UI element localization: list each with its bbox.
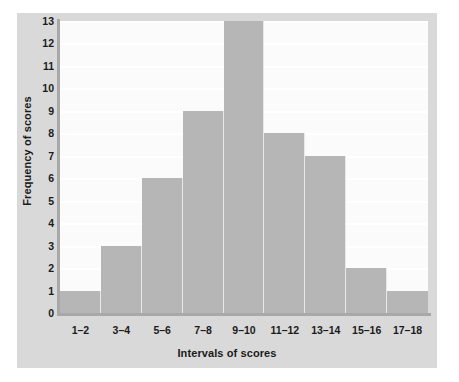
y-axis-tick-labels: 012345678910111213 xyxy=(26,21,54,313)
x-tick-label: 5–6 xyxy=(142,324,183,336)
y-tick-label: 10 xyxy=(32,83,54,93)
x-tick-label: 13–14 xyxy=(305,324,346,336)
histogram-bar xyxy=(142,178,183,313)
histogram-bar xyxy=(224,21,265,313)
histogram-bar xyxy=(305,156,346,313)
y-tick-label: 0 xyxy=(32,308,54,318)
histogram-bar xyxy=(60,291,101,313)
x-axis-line xyxy=(57,313,431,316)
x-tick-label: 9–10 xyxy=(224,324,265,336)
y-tick-label: 6 xyxy=(32,173,54,183)
histogram-figure: Frequency of scores 012345678910111213 1… xyxy=(0,0,459,382)
x-axis-tick-labels: 1–23–45–67–89–1011–1213–1415–1617–18 xyxy=(60,324,428,340)
y-tick-label: 13 xyxy=(32,16,54,26)
plot-area xyxy=(60,21,428,313)
y-tick-label: 7 xyxy=(32,151,54,161)
y-axis-line xyxy=(57,19,60,315)
histogram-bar xyxy=(183,111,224,313)
y-tick-label: 5 xyxy=(32,196,54,206)
y-tick-label: 11 xyxy=(32,61,54,71)
y-tick-label: 8 xyxy=(32,128,54,138)
histogram-bar xyxy=(264,133,305,313)
y-tick-label: 2 xyxy=(32,263,54,273)
y-tick-label: 3 xyxy=(32,241,54,251)
y-tick-label: 9 xyxy=(32,106,54,116)
histogram-bar xyxy=(346,268,387,313)
x-tick-label: 11–12 xyxy=(264,324,305,336)
y-tick-label: 4 xyxy=(32,218,54,228)
histogram-bar xyxy=(101,246,142,313)
x-tick-label: 3–4 xyxy=(101,324,142,336)
x-tick-label: 1–2 xyxy=(60,324,101,336)
histogram-bar xyxy=(387,291,428,313)
x-tick-label: 15–16 xyxy=(346,324,387,336)
y-tick-label: 12 xyxy=(32,38,54,48)
x-tick-label: 7–8 xyxy=(183,324,224,336)
y-tick-label: 1 xyxy=(32,286,54,296)
x-tick-label: 17–18 xyxy=(387,324,428,336)
x-axis-title: Intervals of scores xyxy=(17,347,437,359)
